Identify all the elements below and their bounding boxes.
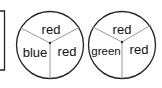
left-box — [0, 11, 5, 70]
spinner-1-sector-top-label: red — [42, 22, 61, 37]
spinner-diagram: red blue red red green red — [0, 0, 162, 88]
spinner-2-sector-right-label: red — [130, 42, 149, 57]
spinner-2-center-dot — [121, 41, 123, 43]
spinner-1-sector-right-label: red — [58, 44, 77, 59]
spinner-1-center-dot — [49, 42, 51, 44]
spinner-2-sector-left-label: green — [91, 45, 120, 57]
spinner-2-sector-top-label: red — [113, 22, 132, 37]
spinner-2: red green red — [89, 12, 156, 79]
spinner-1: red blue red — [17, 12, 84, 79]
spinner-1-sector-left-label: blue — [23, 45, 48, 60]
